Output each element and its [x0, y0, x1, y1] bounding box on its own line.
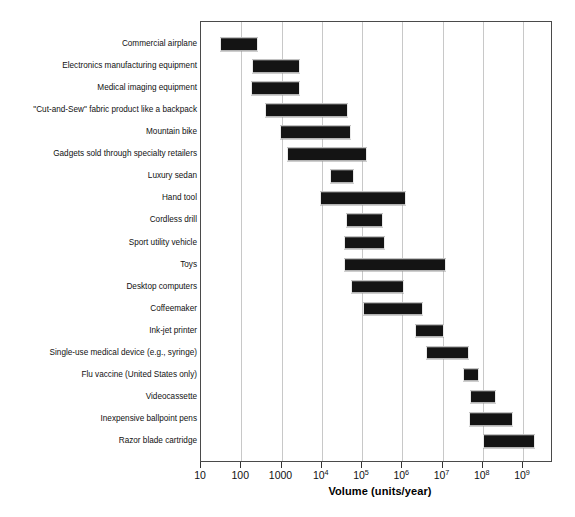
range-bar — [220, 37, 258, 51]
x-axis-tick — [281, 462, 282, 468]
range-bar — [415, 324, 444, 338]
category-label: Luxury sedan — [148, 171, 197, 180]
range-bar — [252, 59, 300, 73]
category-label: Ink-jet printer — [149, 325, 197, 334]
x-axis-tick — [401, 462, 402, 468]
range-bar — [287, 148, 367, 162]
category-label: Gadgets sold through specialty retailers — [53, 149, 197, 158]
gridline — [443, 22, 444, 461]
range-bar — [483, 434, 536, 448]
x-axis-tick-label: 104 — [313, 469, 329, 481]
x-axis-tick-label: 109 — [514, 469, 530, 481]
x-axis-tick-label: 105 — [353, 469, 369, 481]
category-label: Single-use medical device (e.g., syringe… — [50, 347, 197, 356]
category-label: Mountain bike — [146, 127, 197, 136]
x-axis-tick-label: 107 — [434, 469, 450, 481]
x-axis-title: Volume (units/year) — [0, 485, 575, 497]
x-axis-tick — [442, 462, 443, 468]
category-label: Razor blade cartridge — [119, 436, 197, 445]
range-bar — [351, 280, 404, 294]
range-bar — [469, 412, 513, 426]
category-label: Sport utility vehicle — [129, 237, 197, 246]
range-bar — [251, 81, 301, 95]
x-axis-tick-label: 108 — [474, 469, 490, 481]
range-bar — [265, 103, 348, 117]
category-label: "Cut-and-Sew" fabric product like a back… — [33, 105, 197, 114]
category-label: Inexpensive ballpoint pens — [101, 414, 198, 423]
x-axis-tick-label: 1000 — [269, 469, 292, 481]
category-label: Commercial airplane — [122, 39, 197, 48]
x-axis-tick-label: 106 — [393, 469, 409, 481]
range-bar — [363, 302, 424, 316]
range-bar — [344, 258, 446, 272]
x-axis-tick — [361, 462, 362, 468]
range-bar — [346, 214, 383, 228]
plot-area — [200, 21, 552, 462]
x-axis-tick — [240, 462, 241, 468]
volume-range-chart: Commercial airplaneElectronics manufactu… — [0, 0, 575, 517]
x-axis-tick — [321, 462, 322, 468]
gridline — [241, 22, 242, 461]
category-label: Desktop computers — [126, 281, 197, 290]
range-bar — [344, 236, 385, 250]
x-axis-title-text: Volume (units/year) — [328, 485, 431, 497]
category-label: Electronics manufacturing equipment — [62, 61, 197, 70]
category-label: Flu vaccine (United States only) — [81, 369, 197, 378]
category-label: Medical imaging equipment — [97, 83, 197, 92]
range-bar — [470, 390, 496, 404]
gridline — [402, 22, 403, 461]
range-bar — [280, 125, 351, 139]
range-bar — [426, 346, 468, 360]
range-bar — [320, 192, 406, 206]
category-label: Toys — [180, 259, 197, 268]
gridline — [523, 22, 524, 461]
category-label: Videocassette — [146, 391, 197, 400]
x-axis-tick — [200, 462, 201, 468]
x-axis-tick-label: 100 — [231, 469, 249, 481]
category-label: Coffeemaker — [150, 303, 197, 312]
category-label: Cordless drill — [150, 215, 197, 224]
x-axis-tick — [482, 462, 483, 468]
range-bar — [330, 170, 355, 184]
x-axis-tick — [522, 462, 523, 468]
gridline — [322, 22, 323, 461]
range-bar — [463, 368, 478, 382]
x-axis-tick-label: 10 — [194, 469, 206, 481]
category-label: Hand tool — [162, 193, 197, 202]
